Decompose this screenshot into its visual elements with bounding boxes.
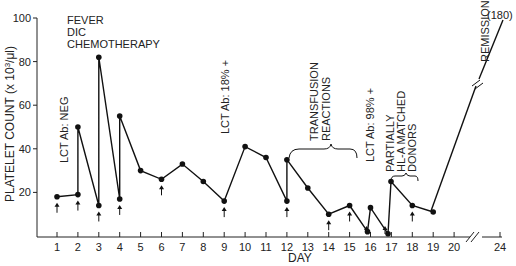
x-tick-label: 4 <box>117 241 123 253</box>
data-point <box>410 203 416 209</box>
data-point <box>368 205 374 211</box>
annotation-dic: DIC <box>67 26 86 38</box>
data-point <box>180 161 186 167</box>
data-point <box>117 113 123 119</box>
x-tick-label: 18 <box>406 241 418 253</box>
arrow-up-icon <box>55 203 60 213</box>
x-tick-label: 15 <box>343 241 355 253</box>
data-point <box>96 203 102 209</box>
y-tick-label: 40 <box>19 143 31 155</box>
arrow-up-icon <box>347 211 352 221</box>
svg-text:TRANSFUSION: TRANSFUSION <box>308 62 320 141</box>
x-ticks: 123456789101112131415161718192024 <box>54 232 506 253</box>
annotation-partially-matched-donors: PARTIALLY HL-A MATCHED DONORS <box>384 91 418 181</box>
data-point <box>263 155 269 161</box>
data-point <box>385 231 391 237</box>
x-tick-label: 8 <box>200 241 206 253</box>
arrow-up-icon <box>410 211 415 221</box>
data-point <box>138 168 144 174</box>
y-tick-label: 80 <box>19 56 31 68</box>
transfusion-arrows <box>55 185 415 234</box>
x-tick-label: 20 <box>448 241 460 253</box>
data-point <box>96 54 102 60</box>
x-tick-label: 2 <box>75 241 81 253</box>
annotation-fever: FEVER <box>67 14 104 26</box>
annotation-lct-18: LCT Ab: 18% + <box>219 60 231 134</box>
x-tick-label: 5 <box>138 241 144 253</box>
arrow-up-icon <box>284 207 289 217</box>
x-axis-title: DAY <box>288 251 312 265</box>
arrow-up-icon <box>159 185 164 195</box>
data-point <box>242 144 248 150</box>
x-tick-label: 10 <box>239 241 251 253</box>
x-tick-label: 19 <box>427 241 439 253</box>
data-point <box>75 192 81 198</box>
data-point <box>221 198 227 204</box>
x-tick-label: 6 <box>158 241 164 253</box>
data-point <box>159 177 165 183</box>
annotation-chemotherapy: CHEMOTHERAPY <box>67 38 161 50</box>
data-point <box>54 194 60 200</box>
y-tick-label: 20 <box>19 186 31 198</box>
annotation-transfusion-reactions: TRANSFUSION REACTIONS <box>289 62 357 158</box>
x-tick-label: 11 <box>260 241 271 253</box>
data-point <box>347 203 353 209</box>
annotation-remission-value: (180) <box>487 9 513 21</box>
arrow-up-icon <box>326 220 331 230</box>
bracket-icon <box>289 144 357 158</box>
data-point <box>284 198 290 204</box>
x-tick-label: 24 <box>494 241 506 253</box>
arrow-up-icon <box>222 207 227 217</box>
data-point <box>201 179 207 185</box>
annotation-lct-98: LCT Ab: 98% + <box>364 88 376 162</box>
data-point <box>75 124 81 130</box>
y-tick-label: 60 <box>19 99 31 111</box>
y-tick-label: 100 <box>13 12 31 24</box>
bracket-icon <box>391 173 418 181</box>
data-point <box>117 196 123 202</box>
arrow-up-icon <box>117 205 122 215</box>
y-axis-title: PLATELET COUNT (x 103/μl) <box>3 46 17 202</box>
x-tick-label: 1 <box>54 241 60 253</box>
x-tick-label: 16 <box>364 241 376 253</box>
arrow-up-icon <box>75 201 80 211</box>
annotation-lct-neg: LCT Ab: NEG <box>58 97 70 163</box>
x-axis: 123456789101112131415161718192024 <box>37 232 506 253</box>
data-point <box>430 209 436 215</box>
break-mark-icon <box>472 80 480 86</box>
x-tick-label: 9 <box>221 241 227 253</box>
data-point <box>305 185 311 191</box>
x-tick-label: 3 <box>96 241 102 253</box>
svg-text:REACTIONS: REACTIONS <box>320 77 332 141</box>
x-tick-label: 14 <box>323 241 335 253</box>
arrow-up-icon <box>96 211 101 221</box>
x-tick-label: 7 <box>179 241 185 253</box>
remission-line <box>431 20 503 211</box>
x-tick-label: 17 <box>385 241 397 253</box>
data-point <box>326 211 332 217</box>
platelet-count-chart: 20406080100 1234567891011121314151617181… <box>0 0 516 266</box>
svg-text:DONORS: DONORS <box>406 124 418 172</box>
break-mark-icon <box>475 83 483 89</box>
